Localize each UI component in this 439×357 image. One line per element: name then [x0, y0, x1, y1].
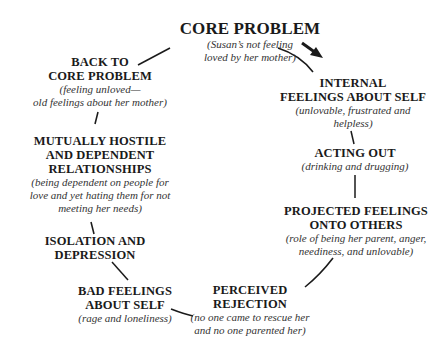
connector-isolation-bad — [112, 262, 128, 280]
node-title: ACTING OUT — [280, 146, 430, 160]
node-title: INTERNALFEELINGS ABOUT SELF — [268, 76, 438, 104]
node-bad-feelings: BAD FEELINGSABOUT SELF (rage and lonelin… — [70, 284, 180, 325]
node-perceived-rejection: PERCEIVEDREJECTION (no one came to rescu… — [180, 283, 320, 337]
node-projected-feelings: PROJECTED FEELINGSONTO OTHERS (role of b… — [268, 204, 439, 258]
node-isolation-depression: ISOLATION ANDDEPRESSION — [30, 234, 160, 262]
node-subtitle: (role of being her parent, anger,needine… — [268, 232, 439, 258]
node-subtitle: (drinking and drugging) — [280, 160, 430, 173]
connector-back-mutual — [95, 112, 98, 124]
node-title: BAD FEELINGSABOUT SELF — [70, 284, 180, 312]
node-title: MUTUALLY HOSTILEAND DEPENDENTRELATIONSHI… — [15, 134, 185, 176]
node-mutually-hostile: MUTUALLY HOSTILEAND DEPENDENTRELATIONSHI… — [15, 134, 185, 215]
node-back-to-core: BACK TOCORE PROBLEM (feeling unloved—old… — [20, 55, 180, 109]
node-acting-out: ACTING OUT (drinking and drugging) — [280, 146, 430, 173]
connector-internal-acting — [351, 131, 354, 144]
node-subtitle: (being dependent on people forlove and y… — [15, 176, 185, 215]
node-internal-feelings: INTERNALFEELINGS ABOUT SELF (unlovable, … — [268, 76, 438, 130]
node-subtitle: (no one came to rescue herand no one par… — [180, 311, 320, 337]
node-title: BACK TOCORE PROBLEM — [20, 55, 180, 83]
node-subtitle: (unlovable, frustrated andhelpless) — [268, 104, 438, 130]
node-title: PERCEIVEDREJECTION — [180, 283, 320, 311]
node-subtitle: (rage and loneliness) — [70, 312, 180, 325]
node-subtitle: (Susan’s not feelingloved by her mother) — [165, 38, 335, 64]
node-title: PROJECTED FEELINGSONTO OTHERS — [268, 204, 439, 232]
connector-mutual-isolation — [91, 222, 94, 234]
node-core-problem: CORE PROBLEM (Susan’s not feelingloved b… — [165, 20, 335, 64]
node-title: CORE PROBLEM — [165, 20, 335, 38]
node-subtitle: (feeling unloved—old feelings about her … — [20, 83, 180, 109]
node-title: ISOLATION ANDDEPRESSION — [30, 234, 160, 262]
